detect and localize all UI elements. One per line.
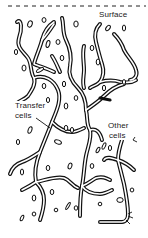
other-cells-label-line1: Other xyxy=(107,121,130,130)
other-cells-label-line2: cells xyxy=(108,131,127,140)
surface-label: Surface xyxy=(99,10,127,19)
transfer-cells-label-line1: Transfer xyxy=(14,101,46,110)
other-cells-pointer xyxy=(133,137,137,142)
transfer-cells-leader xyxy=(36,118,50,128)
transfer-cells-label-line2: cells xyxy=(14,111,33,120)
